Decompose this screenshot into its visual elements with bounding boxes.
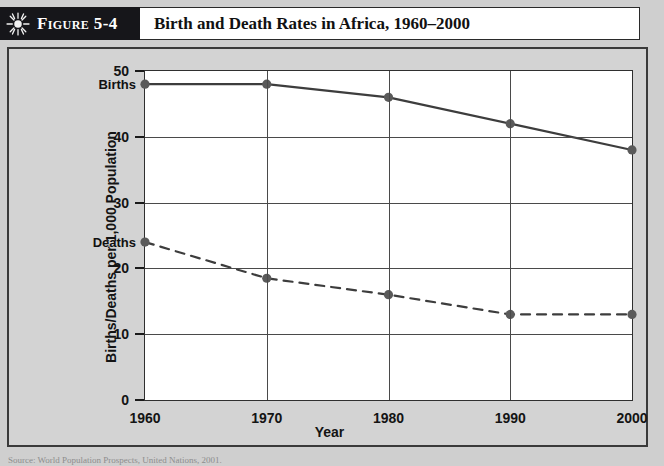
y-tick-label: 40 bbox=[89, 129, 129, 145]
y-tick-mark bbox=[135, 267, 144, 269]
x-tick-label: 1980 bbox=[373, 410, 404, 426]
figure-title: Birth and Death Rates in Africa, 1960–20… bbox=[154, 14, 470, 34]
x-tick-label: 1960 bbox=[129, 410, 160, 426]
y-tick-label: 20 bbox=[89, 260, 129, 276]
gridline-vertical bbox=[267, 71, 268, 400]
x-tick-label: 1990 bbox=[495, 410, 526, 426]
y-tick-mark bbox=[135, 333, 144, 335]
data-point-deaths bbox=[627, 310, 636, 319]
x-tick-label: 1970 bbox=[251, 410, 282, 426]
y-tick-mark bbox=[135, 70, 144, 72]
figure-header: Figure 5-4 Birth and Death Rates in Afri… bbox=[0, 7, 664, 40]
y-tick-mark bbox=[135, 399, 144, 401]
y-tick-label: 30 bbox=[89, 195, 129, 211]
y-tick-mark bbox=[135, 202, 144, 204]
data-point-births bbox=[627, 145, 636, 154]
source-note: Source: World Population Prospects, Unit… bbox=[8, 455, 222, 466]
x-axis-title: Year bbox=[9, 424, 650, 440]
plot-area: 0102030405019601970198019902000BirthsDea… bbox=[144, 70, 633, 401]
y-tick-mark bbox=[135, 136, 144, 138]
figure-number-label: Figure 5-4 bbox=[37, 14, 118, 34]
series-label-births: Births bbox=[98, 77, 145, 92]
chart-panel: Births/Deaths per 1,000 Population Year … bbox=[7, 47, 648, 447]
y-tick-label: 10 bbox=[89, 326, 129, 342]
y-tick-label: 0 bbox=[89, 392, 129, 408]
gridline-vertical bbox=[389, 71, 390, 400]
figure-number-band: Figure 5-4 bbox=[0, 7, 140, 40]
x-tick-label: 2000 bbox=[616, 410, 647, 426]
sun-starburst-icon bbox=[5, 11, 31, 37]
figure-title-band: Birth and Death Rates in Africa, 1960–20… bbox=[140, 7, 640, 40]
series-label-deaths: Deaths bbox=[93, 235, 145, 250]
gridline-vertical bbox=[510, 71, 511, 400]
